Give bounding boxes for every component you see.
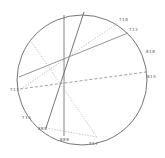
plane-line-l2: [46, 12, 84, 128]
plane-label: 815: [147, 74, 156, 79]
plane-label: T11: [10, 87, 19, 92]
plane-label: 818: [146, 49, 155, 54]
plane-label: 888: [60, 137, 69, 142]
plane-line-l4: [20, 72, 146, 89]
plane-label: T12: [129, 27, 138, 32]
great-circle-lines: [19, 12, 146, 137]
plane-line-l7: [46, 128, 97, 137]
plane-label: T17: [89, 141, 98, 146]
plane-label: T13: [22, 115, 31, 120]
plane-labels: T10T12818815T11T13888888T17: [10, 17, 156, 146]
plane-line-l3: [19, 33, 128, 77]
primitive-circle: [17, 15, 147, 145]
stereonet-diagram: T10T12818815T11T13888888T17: [0, 0, 165, 158]
plane-label: T10: [119, 17, 128, 22]
plane-label: 888: [38, 126, 47, 131]
plane-line-l6: [30, 40, 97, 137]
